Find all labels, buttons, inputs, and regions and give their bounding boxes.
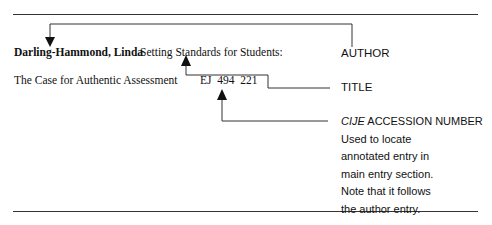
- accession-number: EJ 494 221: [200, 74, 258, 86]
- label-accession: CIJE ACCESSION NUMBER Used to locate ann…: [341, 113, 483, 219]
- title-line-2: The Case for Authentic Assessment: [14, 74, 178, 86]
- label-title: TITLE: [341, 81, 372, 93]
- title-line-1: Setting Standards for Students:: [140, 46, 283, 58]
- accession-note-line: Used to locate: [341, 131, 483, 149]
- accession-note-line: annotated entry in: [341, 148, 483, 166]
- accession-note-line: the author entry.: [341, 201, 483, 219]
- arrow-up-icon: [217, 89, 227, 100]
- label-author: AUTHOR: [341, 47, 390, 59]
- author-name: Darling-Hammond, Linda: [14, 46, 143, 58]
- accession-note-line: main entry section.: [341, 166, 483, 184]
- accession-heading: CIJE ACCESSION NUMBER: [341, 113, 483, 131]
- accession-note-line: Note that it follows: [341, 183, 483, 201]
